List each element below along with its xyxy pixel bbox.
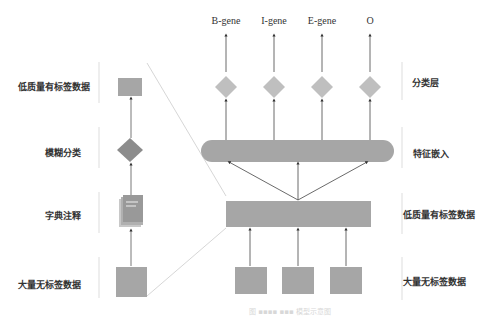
right-label-embedding: 特征嵌入 xyxy=(413,147,449,160)
figure-caption: 图 ▪▪▪▪ ▪▪▪ 模型示意图 xyxy=(235,306,345,316)
right-label-low-quality: 低质量有标签数据 xyxy=(403,208,475,221)
fuzzy-classify-diamond xyxy=(117,138,143,162)
low-quality-data-box xyxy=(118,78,142,96)
feature-embedding-bar xyxy=(201,140,394,162)
left-label-dictionary: 字典注释 xyxy=(45,209,81,222)
left-label-unlabeled: 大量无标签数据 xyxy=(18,278,81,291)
right-label-classifier: 分类层 xyxy=(412,76,439,89)
diagram-canvas xyxy=(0,0,492,320)
unlabeled-data-box xyxy=(116,267,147,297)
left-label-low-quality: 低质量有标签数据 xyxy=(18,80,90,93)
classifier-diamonds xyxy=(215,76,381,98)
output-o: O xyxy=(340,15,400,26)
low-quality-labeled-bar xyxy=(226,201,371,227)
unlabeled-boxes xyxy=(235,267,362,294)
dictionary-doc-icon xyxy=(119,195,143,227)
right-label-unlabeled: 大量无标签数据 xyxy=(403,275,466,288)
left-label-fuzzy: 模糊分类 xyxy=(45,146,81,159)
